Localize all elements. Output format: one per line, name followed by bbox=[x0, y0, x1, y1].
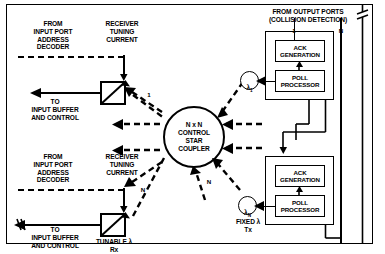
upper-port-index-label: 1 bbox=[145, 91, 153, 98]
lower-input-source-label: FROM INPUT PORT ADDRESS DECODER bbox=[14, 153, 92, 184]
upper-ack-generation-label: ACK GENERATION bbox=[275, 44, 325, 59]
upper-poll-processor-label: POLL PROCESSOR bbox=[275, 74, 325, 89]
lower-poll-processor-label: POLL PROCESSOR bbox=[275, 199, 325, 214]
figure-canvas: FROM INPUT PORT ADDRESS DECODER RECEIVER… bbox=[0, 0, 385, 254]
lower-ack-generation-label: ACK GENERATION bbox=[275, 169, 325, 184]
upper-input-source-label: FROM INPUT PORT ADDRESS DECODER bbox=[14, 20, 92, 51]
lower-device-label: TUNABLE λ Rx bbox=[86, 238, 142, 254]
upper-tuning-current-label: RECEIVER TUNING CURRENT bbox=[91, 20, 153, 43]
lower-branch-index-label: N bbox=[139, 186, 147, 193]
upper-tuning-dashed-line bbox=[18, 56, 124, 58]
upper-output-line bbox=[38, 92, 100, 94]
upper-transmitter-label: λ1 bbox=[240, 76, 259, 93]
upper-module-output-line bbox=[262, 81, 276, 83]
star-coupler: N x N CONTROL STAR COUPLER bbox=[163, 106, 225, 168]
port-N-rail bbox=[340, 18, 342, 244]
upper-tunable-filter bbox=[100, 81, 126, 105]
lower-module-output-line bbox=[260, 206, 276, 208]
lower-tunable-filter bbox=[100, 213, 126, 237]
output-ports-header: FROM OUTPUT PORTS (COLLISION DETECTION) bbox=[252, 8, 364, 24]
lower-tuning-current-label: RECEIVER TUNING CURRENT bbox=[91, 153, 153, 176]
upper-lambda-subscript: 1 bbox=[250, 88, 252, 93]
branch-count-label: N bbox=[205, 178, 213, 185]
upper-output-label: TO INPUT BUFFER AND CONTROL bbox=[12, 98, 98, 121]
lower-tuning-dashed-line bbox=[18, 189, 124, 191]
lower-transmitter-label: λN bbox=[238, 201, 257, 218]
upper-tuning-drop bbox=[123, 55, 125, 74]
lower-tuning-drop bbox=[123, 188, 125, 206]
